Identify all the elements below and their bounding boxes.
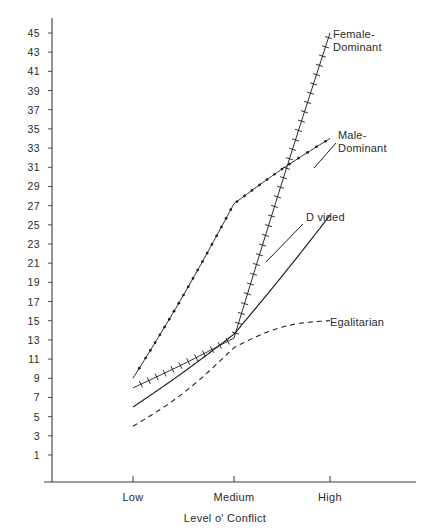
series-label-egalitarian: Egalitarian: [330, 316, 384, 329]
series-label-female-dominant: Female- Dominant: [333, 28, 382, 53]
y-tick-label: 31: [14, 162, 40, 173]
series-line-divided: [133, 215, 330, 407]
series-label-divided: D vided: [306, 211, 345, 224]
x-tick-label-low: Low: [108, 492, 158, 503]
y-tick-label: 13: [14, 335, 40, 346]
y-tick-label: 41: [14, 66, 40, 77]
y-tick-label: 29: [14, 181, 40, 192]
y-tick-label: 7: [14, 392, 40, 403]
y-tick-label: 23: [14, 239, 40, 250]
y-tick-label: 33: [14, 143, 40, 154]
y-tick-label: 5: [14, 412, 40, 423]
series-line-male-dominant: [133, 139, 330, 379]
x-tick-label-high: High: [306, 492, 354, 503]
y-tick-label: 19: [14, 277, 40, 288]
y-tick-label: 1: [14, 450, 40, 461]
y-tick-label: 39: [14, 86, 40, 97]
label-leader-lines: [266, 143, 336, 262]
x-axis-ticks: [133, 476, 330, 482]
y-axis-ticks: [48, 33, 52, 455]
chart-figure: 4543413937353331292725232119171513119753…: [0, 0, 424, 528]
y-tick-label: 35: [14, 124, 40, 135]
y-tick-label: 27: [14, 201, 40, 212]
x-axis-title: Level o' Conflict: [150, 513, 300, 524]
series-label-male-dominant: Male- Dominant: [338, 129, 387, 154]
y-tick-label: 37: [14, 105, 40, 116]
x-tick-label-medium: Medium: [205, 492, 263, 503]
y-tick-label: 43: [14, 47, 40, 58]
y-tick-label: 15: [14, 316, 40, 327]
y-tick-label: 25: [14, 220, 40, 231]
y-tick-label: 3: [14, 431, 40, 442]
plot-canvas: [0, 0, 424, 528]
y-tick-label: 45: [14, 28, 40, 39]
y-tick-label: 11: [14, 354, 40, 365]
y-tick-label: 17: [14, 297, 40, 308]
y-tick-label: 9: [14, 373, 40, 384]
y-tick-label: 21: [14, 258, 40, 269]
